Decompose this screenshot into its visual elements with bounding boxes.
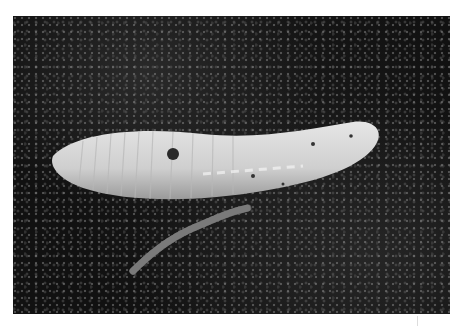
earthworm (13, 16, 450, 314)
photo-edge-mark (417, 316, 424, 326)
photograph (13, 16, 450, 314)
